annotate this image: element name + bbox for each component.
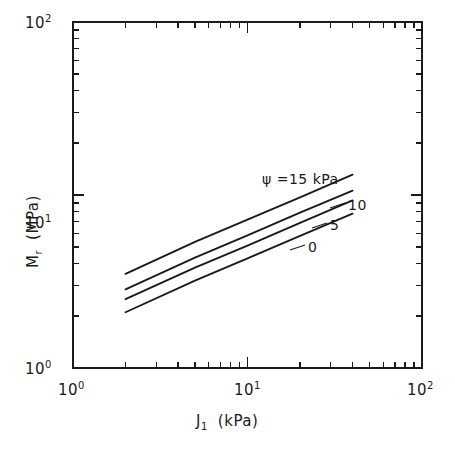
curve-series-3 bbox=[126, 214, 353, 313]
y-tick-label-1: 100 bbox=[25, 360, 51, 377]
curve-label-psi0: 0 bbox=[308, 240, 317, 254]
y-tick-label-100: 102 bbox=[25, 14, 51, 31]
x-tick-label-100: 102 bbox=[407, 381, 433, 398]
y-axis-title: Mr (MPa) bbox=[26, 195, 44, 268]
y-axis-title-wrap: Mr (MPa) bbox=[6, 150, 30, 270]
axes-frame bbox=[73, 22, 422, 368]
curve-series-2 bbox=[126, 200, 353, 299]
data-curves bbox=[126, 175, 353, 313]
axis-ticks bbox=[73, 22, 422, 368]
curve-series-0 bbox=[126, 175, 353, 274]
x-tick-label-1: 100 bbox=[58, 381, 84, 398]
curve-label-psi10: 10 bbox=[348, 198, 367, 212]
curve-label-psi5: 5 bbox=[330, 218, 339, 232]
figure-container: 102 101 100 100 101 102 Mr (MPa) J1 (kPa… bbox=[0, 0, 455, 451]
curve-label-psi15: ψ =15 kPa bbox=[262, 172, 339, 186]
curve-series-1 bbox=[126, 191, 353, 290]
x-axis-title: J1 (kPa) bbox=[196, 414, 258, 432]
x-tick-label-10: 101 bbox=[234, 381, 260, 398]
leader-line-2 bbox=[290, 245, 305, 250]
